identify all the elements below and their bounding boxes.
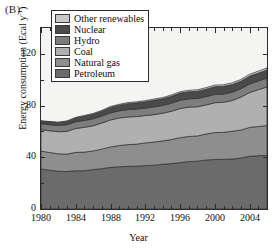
x-tick-minor <box>224 206 225 209</box>
x-tick-minor <box>232 206 233 209</box>
legend-swatch-icon <box>55 47 70 56</box>
y-tick-minor <box>41 80 44 81</box>
x-tick-minor <box>189 206 190 209</box>
y-tick-label: 80 <box>6 99 36 110</box>
x-tick-major <box>145 204 146 209</box>
x-tick-minor <box>241 206 242 209</box>
legend-item: Petroleum <box>55 68 144 79</box>
y-tick-minor <box>41 131 44 132</box>
legend-item-label: Nuclear <box>74 24 106 35</box>
y-tick-minor <box>41 183 44 184</box>
y-tick-major <box>41 209 45 210</box>
x-tick-major <box>250 204 251 209</box>
legend-item: Other renewables <box>55 13 144 24</box>
legend-item-label: Coal <box>74 46 93 57</box>
y-axis-title-close: ) <box>17 7 28 10</box>
x-tick-minor-top <box>232 28 233 31</box>
legend-swatch-icon <box>55 58 70 67</box>
y-tick-major-right <box>263 106 267 107</box>
x-tick-major <box>111 204 112 209</box>
y-axis-title-text: Energy consumption (Ecal y <box>17 16 28 130</box>
y-tick-major <box>41 106 45 107</box>
legend-item: Nuclear <box>55 24 144 35</box>
x-tick-minor-top <box>241 28 242 31</box>
legend-swatch-icon <box>55 69 70 78</box>
y-tick-major-right <box>263 54 267 55</box>
legend-item-label: Other renewables <box>74 13 144 24</box>
x-tick-label: 2000 <box>195 212 235 223</box>
x-tick-major <box>215 204 216 209</box>
x-tick-minor <box>128 206 129 209</box>
x-tick-minor-top <box>154 28 155 31</box>
x-tick-minor <box>58 206 59 209</box>
x-tick-minor <box>93 206 94 209</box>
x-tick-minor <box>206 206 207 209</box>
y-tick-major-right <box>263 209 267 210</box>
x-tick-major-top <box>250 28 251 33</box>
y-axis-title: Energy consumption (Ecal y-1) <box>16 0 28 148</box>
x-tick-label: 2004 <box>230 212 270 223</box>
x-tick-label: 1984 <box>56 212 96 223</box>
x-tick-minor-top <box>189 28 190 31</box>
x-tick-minor-top <box>267 28 268 31</box>
x-tick-minor-top <box>258 28 259 31</box>
x-tick-minor <box>163 206 164 209</box>
x-tick-major-top <box>215 28 216 33</box>
x-tick-label: 1996 <box>160 212 200 223</box>
x-tick-minor-top <box>171 28 172 31</box>
legend-swatch-icon <box>55 14 70 23</box>
legend-item: Natural gas <box>55 57 144 68</box>
x-tick-minor-top <box>197 28 198 31</box>
x-tick-minor-top <box>224 28 225 31</box>
x-tick-minor <box>137 206 138 209</box>
x-tick-minor <box>267 206 268 209</box>
x-tick-minor <box>171 206 172 209</box>
x-tick-label: 1992 <box>125 212 165 223</box>
x-tick-major-top <box>180 28 181 33</box>
legend-item-label: Petroleum <box>74 68 115 79</box>
x-tick-major <box>180 204 181 209</box>
y-tick-label: 40 <box>6 150 36 161</box>
x-tick-minor <box>119 206 120 209</box>
x-tick-minor <box>84 206 85 209</box>
x-tick-minor-top <box>163 28 164 31</box>
legend-swatch-icon <box>55 25 70 34</box>
y-tick-major-right <box>263 157 267 158</box>
x-tick-major-top <box>41 28 42 33</box>
legend-item: Hydro <box>55 35 144 46</box>
y-axis-title-exponent: -1 <box>16 10 24 16</box>
x-tick-minor-top <box>206 28 207 31</box>
legend: Other renewablesNuclearHydroCoalNatural … <box>51 10 149 82</box>
legend-item: Coal <box>55 46 144 57</box>
x-tick-minor <box>102 206 103 209</box>
figure-panel-b: (B) Energy consumption (Ecal y-1) 040801… <box>0 0 277 249</box>
x-tick-minor <box>258 206 259 209</box>
legend-item-label: Natural gas <box>74 57 120 68</box>
x-axis-title: Year <box>0 232 277 243</box>
x-tick-major <box>41 204 42 209</box>
y-tick-major <box>41 157 45 158</box>
y-tick-major <box>41 54 45 55</box>
x-tick-minor <box>50 206 51 209</box>
x-tick-label: 1980 <box>21 212 61 223</box>
legend-item-label: Hydro <box>74 35 100 46</box>
x-tick-major <box>76 204 77 209</box>
y-tick-label: 120 <box>6 47 36 58</box>
x-tick-minor <box>154 206 155 209</box>
x-tick-minor <box>67 206 68 209</box>
x-tick-minor <box>197 206 198 209</box>
legend-swatch-icon <box>55 36 70 45</box>
